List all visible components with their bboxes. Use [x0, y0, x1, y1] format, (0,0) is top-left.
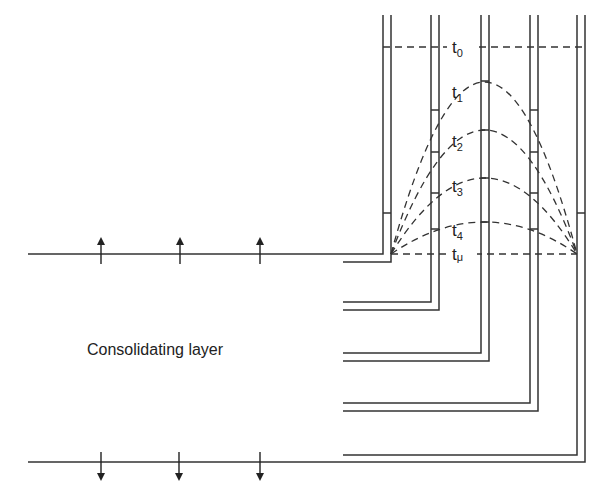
pipe4-outer — [343, 15, 538, 411]
pipe4-inner — [343, 15, 530, 403]
bottom-boundary-line — [28, 15, 585, 462]
label-t1: t1 — [452, 83, 463, 104]
isochrone-t2 — [391, 130, 577, 254]
pipe1-outer — [343, 15, 391, 262]
label-t3: t3 — [452, 177, 463, 198]
pipe3-outer — [343, 15, 489, 361]
consolidation-diagram: t0 t1 t2 t3 t4 tμ Consolidating layer — [0, 0, 603, 498]
label-t2: t2 — [452, 132, 463, 153]
isochrone-t4 — [391, 222, 577, 254]
isochrone-t1 — [391, 82, 577, 254]
pipe2-inner — [343, 15, 431, 302]
top-boundary-line — [28, 15, 383, 254]
layer-label: Consolidating layer — [87, 341, 224, 358]
